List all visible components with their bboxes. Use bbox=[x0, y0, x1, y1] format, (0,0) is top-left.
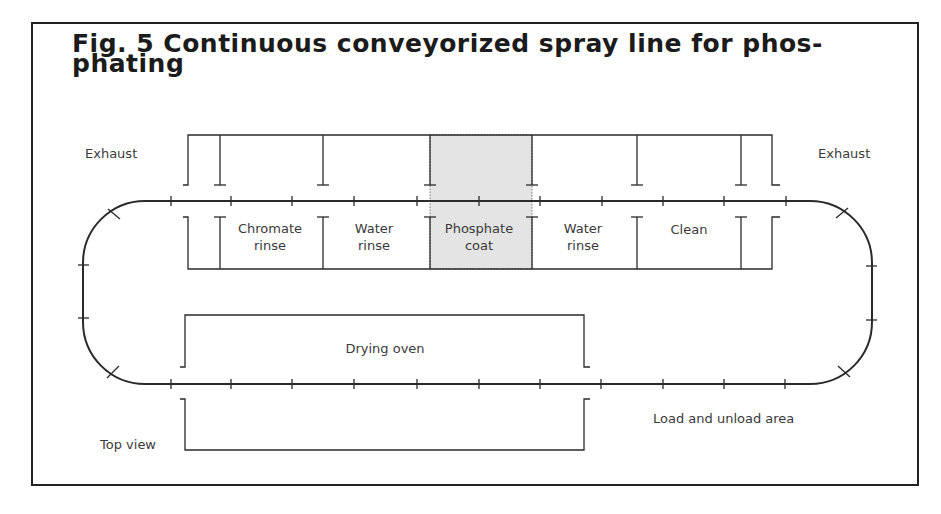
stage-clean-line1: Clean bbox=[671, 222, 708, 237]
drying-oven-label: Drying oven bbox=[345, 341, 424, 356]
top-view-label: Top view bbox=[99, 437, 156, 452]
stage-phosphate-line1: Phosphate bbox=[445, 221, 513, 236]
conveyor-diagram: Exhaust Exhaust Chromate rinse Water rin… bbox=[0, 0, 941, 514]
load-unload-label: Load and unload area bbox=[653, 411, 794, 426]
stage-water2-line1: Water bbox=[564, 221, 603, 236]
exhaust-right-label: Exhaust bbox=[818, 146, 870, 161]
stage-water1-line2: rinse bbox=[358, 238, 390, 253]
stage-chromate-line1: Chromate bbox=[238, 221, 302, 236]
stage-phosphate-line2: coat bbox=[465, 238, 493, 253]
stage-water2-line2: rinse bbox=[567, 238, 599, 253]
stage-chromate-line2: rinse bbox=[254, 238, 286, 253]
exhaust-left-label: Exhaust bbox=[85, 146, 137, 161]
drying-oven bbox=[180, 315, 590, 450]
stage-water1-line1: Water bbox=[355, 221, 394, 236]
